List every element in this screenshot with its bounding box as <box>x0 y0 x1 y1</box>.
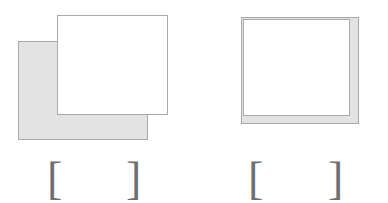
left-figure-white-rectangle <box>57 15 168 115</box>
right-figure-caption: [ ] <box>194 157 388 201</box>
figure-left: [ ] <box>0 0 194 203</box>
left-caption-open-bracket: [ <box>47 157 62 201</box>
diagram-canvas: [ ] [ ] <box>0 0 388 203</box>
left-figure-caption: [ ] <box>0 157 194 201</box>
left-caption-close-bracket: ] <box>126 157 141 201</box>
figure-right: [ ] <box>194 0 388 203</box>
right-caption-open-bracket: [ <box>248 157 263 201</box>
right-caption-close-bracket: ] <box>328 157 343 201</box>
right-figure-white-rectangle <box>243 19 350 116</box>
